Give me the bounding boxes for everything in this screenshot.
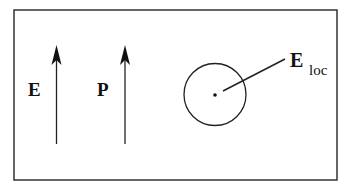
field-label: E: [28, 80, 41, 99]
field-arrow-icon: [52, 45, 62, 144]
local-field-leader-line: [223, 59, 285, 91]
frame-border: [14, 10, 337, 180]
diagram-canvas: [0, 0, 347, 196]
local-field-label: E: [290, 50, 303, 70]
polarization-arrow-icon: [120, 45, 130, 144]
polarization-label: P: [97, 80, 109, 99]
local-field-subscript: loc: [309, 63, 327, 78]
center-point: [213, 93, 217, 97]
